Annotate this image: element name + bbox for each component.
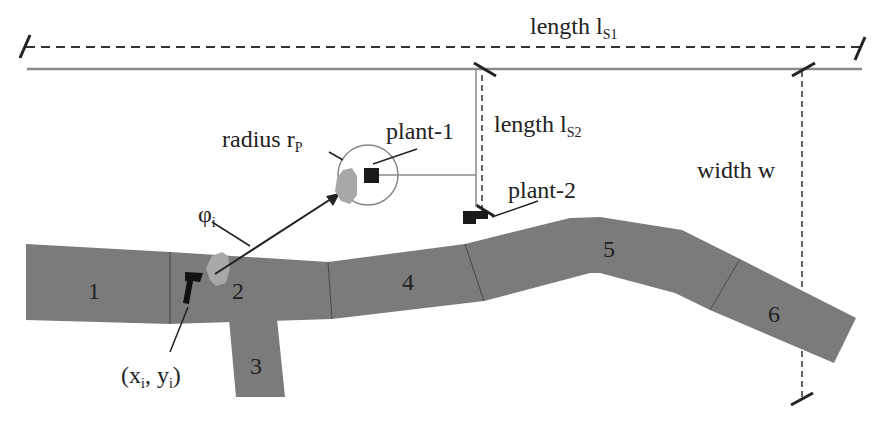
length-s2-label: length lS2 <box>494 111 581 140</box>
segment-label-2: 2 <box>232 278 244 304</box>
segment-label-4: 4 <box>402 269 414 295</box>
coordinate-label: (xi, yi) <box>121 362 181 391</box>
segment-label-5: 5 <box>603 236 615 262</box>
segment-label-6: 6 <box>768 301 780 327</box>
segment-label-1: 1 <box>88 278 100 304</box>
plant-1-label: plant-1 <box>386 118 454 144</box>
angle-label: φi <box>198 201 216 230</box>
road-segment-5 <box>465 217 740 310</box>
radius-label: radius rP <box>222 126 303 155</box>
width-label: width w <box>697 157 776 183</box>
width-dimension <box>791 63 815 405</box>
length-s1-dimension <box>20 35 865 60</box>
road-segment-6 <box>710 259 856 363</box>
length-s1-label: length lS1 <box>530 13 617 42</box>
plant-1-icon <box>364 168 379 183</box>
plant-2-label: plant-2 <box>508 177 576 203</box>
site-layout-diagram: 1 2 3 4 5 6 length lS1 length lS2 width … <box>0 0 887 426</box>
segment-label-3: 3 <box>250 353 262 379</box>
road-segment-2 <box>170 252 332 324</box>
